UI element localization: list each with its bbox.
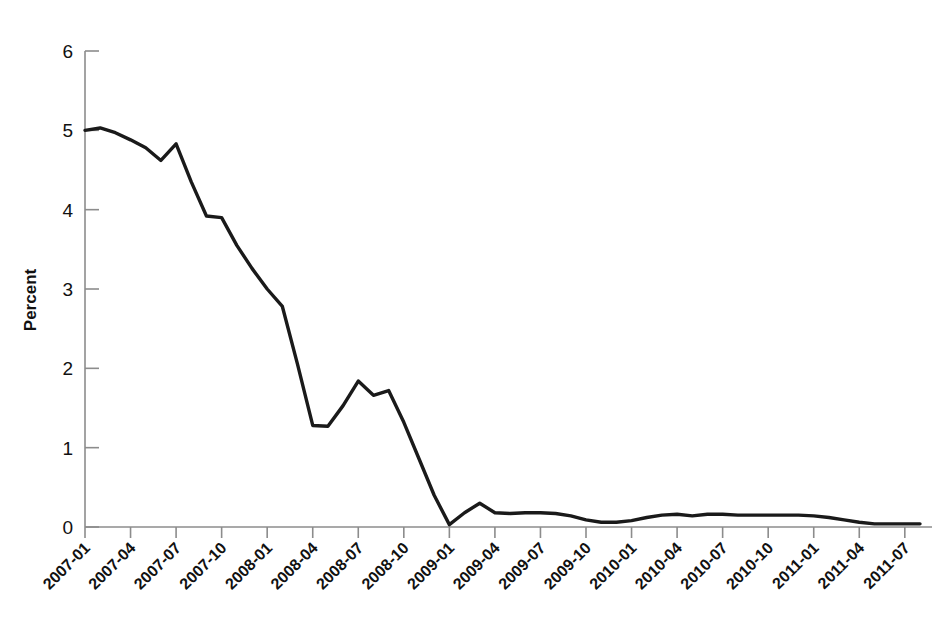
y-tick-label: 6 [62,41,73,62]
x-tick-label: 2010-04 [632,539,686,593]
x-tick-label: 2011-01 [769,539,822,592]
x-tick-label: 2011-07 [860,539,913,592]
chart-container: 0123456 2007-012007-042007-072007-102008… [0,0,952,628]
y-tick-label: 2 [62,358,73,379]
x-tick-label: 2008-04 [267,539,321,593]
y-tick-label: 1 [62,438,73,459]
x-tick-label: 2010-07 [677,539,731,593]
x-tick-label: 2008-07 [313,539,367,593]
x-tick-label: 2009-01 [404,539,458,593]
x-tick-label: 2008-01 [222,539,276,593]
y-axis-label: Percent [21,268,40,331]
x-tick-label: 2010-10 [723,539,777,593]
y-tick-label: 5 [62,120,73,141]
y-tick-label: 3 [62,279,73,300]
line-chart: 0123456 2007-012007-042007-072007-102008… [0,0,952,628]
x-tick-label: 2010-01 [586,539,640,593]
y-tick-label: 0 [62,517,73,538]
x-axis-ticks: 2007-012007-042007-072007-102008-012008-… [40,527,913,593]
x-tick-label: 2011-04 [814,539,867,592]
data-series-layer [85,128,920,525]
y-axis-ticks: 0123456 [62,41,99,538]
x-tick-label: 2009-04 [449,539,503,593]
series-line-percent [85,128,920,525]
x-tick-label: 2007-01 [40,539,94,593]
x-tick-label: 2007-10 [176,539,230,593]
x-tick-label: 2009-07 [495,539,549,593]
x-tick-label: 2008-10 [358,539,412,593]
x-tick-label: 2009-10 [541,539,595,593]
x-tick-label: 2007-04 [85,539,139,593]
x-tick-label: 2007-07 [131,539,185,593]
axis-layer [85,51,932,527]
y-tick-label: 4 [62,200,73,221]
